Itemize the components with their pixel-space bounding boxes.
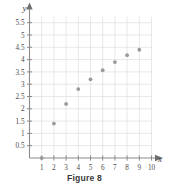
- x-tick-label: 3: [64, 164, 68, 172]
- y-tick-label: 1.5: [16, 118, 25, 126]
- figure-caption: Figure 8: [0, 173, 169, 183]
- x-tick-label: 5: [89, 164, 93, 172]
- data-point: [40, 156, 44, 160]
- data-point: [52, 122, 56, 126]
- grid-lines: [30, 17, 152, 158]
- y-tick-label: 2.5: [16, 93, 25, 101]
- x-axis-tick-labels: 12345678910: [40, 164, 156, 172]
- x-tick-label: 10: [148, 164, 156, 172]
- y-tick-label: 5: [21, 32, 25, 40]
- y-axis-label: y: [22, 3, 27, 13]
- y-tick-label: 2: [21, 105, 25, 113]
- y-tick-label: 3: [21, 81, 25, 89]
- y-tick-label: 3.5: [16, 69, 25, 77]
- data-point: [125, 53, 129, 57]
- x-tick-label: 1: [40, 164, 44, 172]
- x-tick-label: 9: [138, 164, 142, 172]
- tick-marks: [27, 23, 152, 161]
- y-tick-label: 5.5: [16, 19, 25, 27]
- y-tick-label: 4: [21, 56, 25, 64]
- y-tick-label: 0.5: [16, 142, 25, 150]
- data-point: [76, 87, 80, 91]
- y-axis-tick-labels: 0.511.522.533.544.555.5: [16, 19, 25, 150]
- axes: [26, 3, 163, 162]
- scatter-plot: 0.511.522.533.544.555.5 12345678910 y x: [0, 0, 169, 191]
- data-point: [113, 60, 117, 64]
- x-tick-label: 4: [77, 164, 81, 172]
- data-point: [137, 48, 141, 52]
- data-point: [101, 68, 105, 72]
- x-tick-label: 8: [125, 164, 129, 172]
- data-point: [89, 77, 93, 81]
- x-axis-label: x: [157, 154, 162, 164]
- y-tick-label: 1: [21, 130, 25, 138]
- data-point: [64, 102, 68, 106]
- figure-container: 0.511.522.533.544.555.5 12345678910 y x …: [0, 0, 169, 191]
- x-tick-label: 2: [52, 164, 56, 172]
- y-tick-label: 4.5: [16, 44, 25, 52]
- x-tick-label: 7: [113, 164, 117, 172]
- x-tick-label: 6: [101, 164, 105, 172]
